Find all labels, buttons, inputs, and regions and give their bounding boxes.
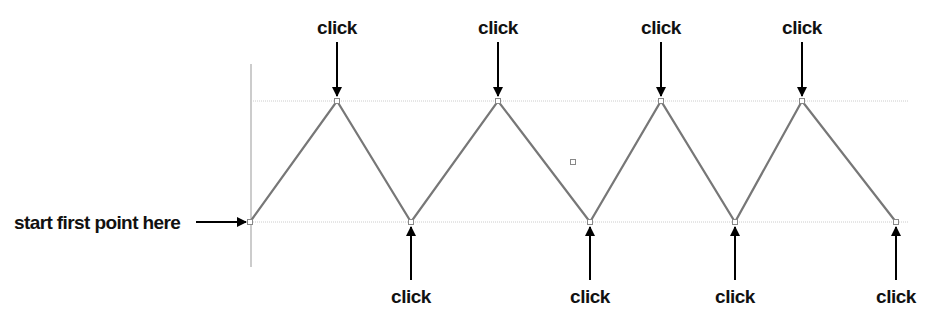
anchor-point bbox=[733, 220, 738, 225]
stray-anchor-point bbox=[571, 160, 576, 165]
start-label: start first point here bbox=[14, 212, 180, 234]
click-label-top-4: click bbox=[782, 17, 822, 39]
click-label-top-1: click bbox=[317, 17, 357, 39]
anchor-point bbox=[894, 220, 899, 225]
anchor-point bbox=[588, 220, 593, 225]
diagram-canvas bbox=[0, 0, 940, 321]
click-label-top-3: click bbox=[641, 17, 681, 39]
click-label-bottom-4: click bbox=[876, 286, 916, 308]
anchor-point bbox=[409, 220, 414, 225]
anchor-point bbox=[248, 220, 253, 225]
anchor-point bbox=[800, 99, 805, 104]
anchor-point bbox=[335, 99, 340, 104]
anchor-point bbox=[659, 99, 664, 104]
zigzag-diagram: start first point here click click click… bbox=[0, 0, 940, 321]
click-label-top-2: click bbox=[478, 17, 518, 39]
anchor-point bbox=[496, 99, 501, 104]
click-label-bottom-3: click bbox=[715, 286, 755, 308]
click-label-bottom-1: click bbox=[391, 286, 431, 308]
click-label-bottom-2: click bbox=[570, 286, 610, 308]
click-arrows bbox=[337, 42, 896, 280]
